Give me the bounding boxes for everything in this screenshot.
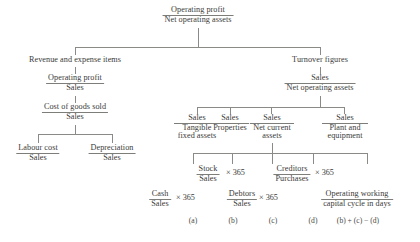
wc-drop-cycle (367, 153, 368, 164)
labour-cost-denominator: Sales (16, 154, 59, 163)
left-child-labour-cost: Labour cost Sales (16, 144, 59, 162)
left-stem-3 (75, 125, 76, 134)
net-current-denominator: Net current assets (250, 124, 294, 141)
left-branch-heading: Revenue and expense items (29, 56, 121, 65)
tag-c: (c) (269, 216, 277, 225)
stock-denominator: Sales (197, 175, 220, 184)
left-ratio2-denominator: Sales (42, 113, 108, 122)
cycle-line2: capital cycle in days (321, 200, 393, 209)
left-child-drop-depreciation (112, 134, 113, 143)
tag-b: (b) (229, 216, 238, 225)
cash-multiplier: × 365 (176, 193, 195, 202)
tag-a: (a) (189, 216, 197, 225)
working-capital-stem (272, 143, 273, 153)
turnover-properties: Sales Properties (211, 114, 249, 132)
left-ratio-cogs-sales: Cost of goods sold Sales (42, 103, 108, 121)
left-ratio1-denominator: Sales (46, 84, 104, 93)
cash-denominator: Sales (149, 200, 171, 209)
right-branch-heading: Turnover figures (292, 56, 348, 65)
right-ratio-sales-net-operating-assets: Sales Net operating assets (285, 74, 356, 92)
wc-debtors-over-sales: Debtors Sales (227, 190, 257, 208)
left-child-depreciation: Depreciation Sales (89, 144, 136, 162)
right-stem-2 (320, 96, 321, 107)
left-child-drop-labour (38, 134, 39, 143)
stock-multiplier: × 365 (226, 168, 245, 177)
wc-drop-creditors (313, 153, 314, 164)
properties-denominator: Properties (211, 124, 249, 133)
cycle-formula: (b) + (c) − (d) (337, 216, 379, 225)
left-children-bus (38, 134, 112, 135)
wc-cash-over-sales: Cash Sales (149, 190, 171, 208)
debtors-denominator: Sales (227, 200, 257, 209)
top-connector-bus (75, 47, 320, 48)
root-denominator: Net operating assets (163, 16, 234, 25)
depreciation-denominator: Sales (89, 154, 136, 163)
wc-creditors-over-purchases: Creditors Purchases (273, 165, 310, 183)
top-bus-right-drop (320, 47, 321, 55)
creditors-multiplier: × 365 (315, 168, 334, 177)
debtors-multiplier: × 365 (259, 193, 278, 202)
turnover-plant-and-equipment: Sales Plant and equipment (322, 114, 368, 141)
left-ratio-operating-profit-sales: Operating profit Sales (46, 74, 104, 92)
plant-denominator: Plant and equipment (322, 124, 368, 141)
wc-drop-cash (193, 153, 194, 164)
root-stem (198, 28, 199, 47)
turnover-net-current-assets: Sales Net current assets (250, 114, 294, 141)
tag-d: (d) (309, 216, 318, 225)
wc-stock-over-sales: Stock Sales (197, 165, 220, 183)
ratio-pyramid-diagram: Operating profit Net operating assets Re… (0, 0, 420, 242)
top-bus-left-drop (75, 47, 76, 55)
working-capital-bus (193, 153, 367, 154)
right-ratio-denominator: Net operating assets (285, 84, 356, 93)
wc-drop-debtors (272, 153, 273, 164)
creditors-denominator: Purchases (273, 175, 310, 184)
root-ratio: Operating profit Net operating assets (163, 6, 234, 24)
wc-drop-stock (232, 153, 233, 164)
operating-working-capital-cycle: Operating working capital cycle in days (321, 190, 393, 208)
